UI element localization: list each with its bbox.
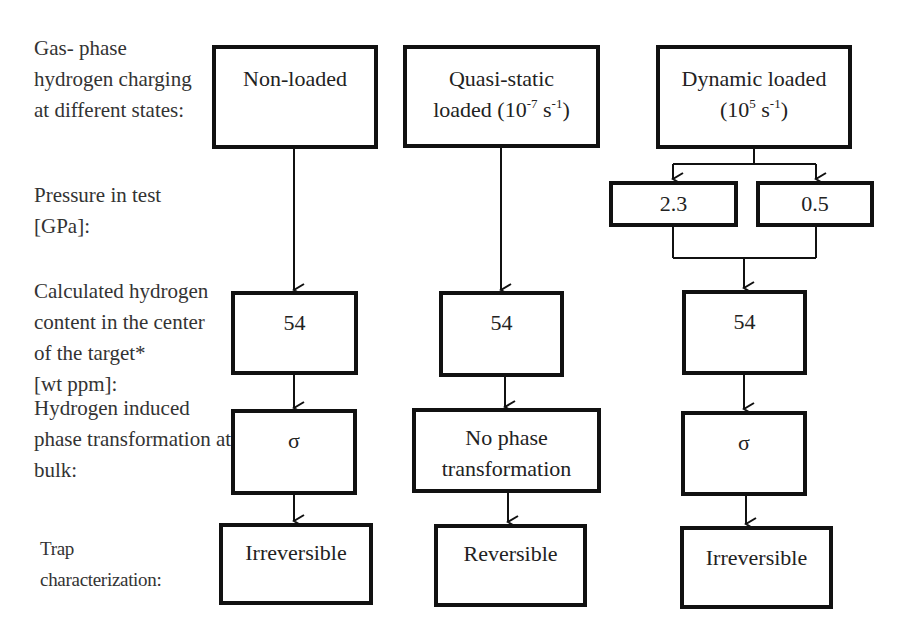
rate-text: (10 (720, 97, 749, 122)
row-label-line: bulk: (34, 455, 231, 486)
trap-box-col1: Irreversible (219, 523, 373, 605)
phase-value: σ (235, 425, 353, 456)
trap-value: Irreversible (223, 537, 369, 568)
trap-value: Reversible (438, 538, 583, 569)
row-label-pressure: Pressure in test [GPa]: (34, 180, 161, 242)
rate-exponent: -7 (527, 96, 538, 111)
content-box-col1: 54 (231, 291, 358, 375)
row-label-line: at different states: (34, 95, 192, 126)
rate-text: loaded (10 (433, 97, 526, 122)
row-label-line: characterization: (40, 564, 161, 595)
pressure-value: 0.5 (760, 188, 870, 219)
rate-close: ) (562, 97, 569, 122)
phase-box-col2: No phase transformation (412, 408, 601, 493)
rate-close: ) (781, 97, 788, 122)
pressure-box-0.5: 0.5 (756, 181, 874, 227)
unit-exponent: -1 (770, 96, 781, 111)
state-box-non-loaded: Non-loaded (212, 45, 378, 149)
row-label-charging: Gas- phase hydrogen charging at differen… (34, 33, 192, 126)
phase-value: No phase (416, 422, 597, 453)
row-label-trap: Trap characterization: (40, 533, 161, 595)
row-label-line: Gas- phase (34, 33, 192, 64)
content-value: 54 (235, 307, 354, 338)
content-value: 54 (686, 306, 803, 337)
rate-unit: s (756, 97, 770, 122)
state-label: Non-loaded (216, 63, 374, 94)
row-label-line: Trap (40, 533, 161, 564)
phase-value: σ (685, 427, 803, 458)
state-label: Dynamic loaded (660, 63, 848, 94)
content-box-col2: 54 (439, 291, 564, 377)
row-label-line: Hydrogen induced (34, 393, 231, 424)
phase-box-col3: σ (681, 411, 807, 496)
pressure-box-2.3: 2.3 (609, 181, 738, 227)
phase-value: transformation (416, 453, 597, 484)
row-label-line: Calculated hydrogen (34, 276, 208, 307)
row-label-content: Calculated hydrogen content in the cente… (34, 276, 208, 400)
content-box-col3: 54 (682, 290, 807, 375)
row-label-line: [GPa]: (34, 211, 161, 242)
state-label: Quasi-static (407, 63, 596, 94)
state-rate: loaded (10-7 s-1) (407, 94, 596, 125)
row-label-line: Pressure in test (34, 180, 161, 211)
row-label-line: phase transformation at (34, 424, 231, 455)
trap-value: Irreversible (684, 542, 829, 573)
trap-box-col2: Reversible (434, 524, 587, 607)
trap-box-col3: Irreversible (680, 526, 833, 609)
pressure-value: 2.3 (613, 188, 734, 219)
row-label-line: content in the center (34, 307, 208, 338)
phase-box-col1: σ (231, 409, 357, 495)
state-box-quasi-static: Quasi-static loaded (10-7 s-1) (403, 45, 600, 148)
rate-unit: s (538, 97, 552, 122)
state-box-dynamic-loaded: Dynamic loaded (105 s-1) (656, 45, 852, 149)
row-label-line: hydrogen charging (34, 64, 192, 95)
state-rate: (105 s-1) (660, 94, 848, 125)
content-value: 54 (443, 307, 560, 338)
row-label-line: of the target* (34, 338, 208, 369)
unit-exponent: -1 (552, 96, 563, 111)
row-label-phase: Hydrogen induced phase transformation at… (34, 393, 231, 486)
